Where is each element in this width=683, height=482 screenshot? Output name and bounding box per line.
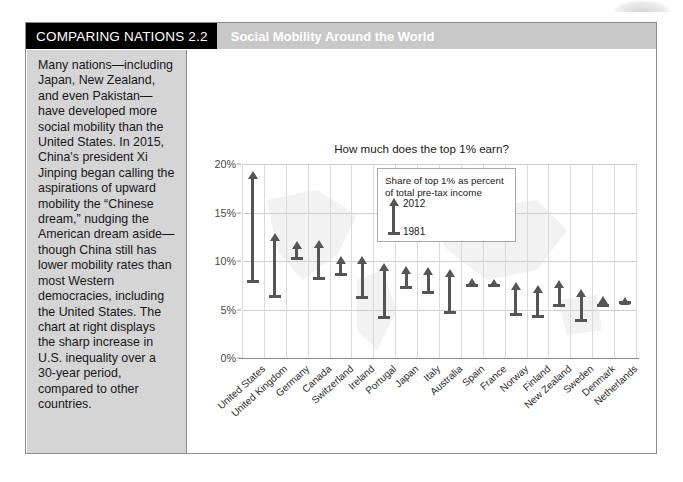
y-axis-tick-label: 10%	[214, 255, 236, 267]
y-axis-tick-label: 15%	[214, 207, 236, 219]
arrow-head-icon	[401, 266, 411, 274]
legend-label-2012: 2012	[403, 198, 425, 209]
arrow-head-icon	[270, 233, 280, 241]
arrow-base-marker	[488, 284, 500, 287]
figure-number-tag: COMPARING NATIONS 2.2	[26, 23, 217, 49]
arrow-base-marker	[532, 315, 544, 318]
legend-caption: Share of top 1% as percent of total pre-…	[385, 175, 513, 199]
chart-title: How much does the top 1% earn?	[187, 142, 656, 155]
arrow-head-icon	[554, 280, 564, 288]
chart-panel: How much does the top 1% earn? 0%5%10%15…	[187, 50, 656, 453]
y-axis-tick-mark	[237, 358, 241, 359]
arrow-head-icon	[576, 289, 586, 297]
arrow-head-icon	[336, 256, 346, 264]
y-axis-tick-mark	[237, 212, 241, 213]
arrow-head-icon	[248, 171, 258, 179]
arrow-shaft	[317, 247, 320, 277]
legend-arrow-shaft-icon	[392, 203, 395, 234]
arrow-base-marker	[422, 291, 434, 294]
arrow-shaft	[405, 273, 408, 286]
arrow-shaft	[448, 276, 451, 312]
arrow-shaft	[536, 292, 539, 315]
arrow-base-marker	[335, 273, 347, 276]
arrow-shaft	[514, 289, 517, 313]
gridline-vertical	[592, 164, 593, 358]
x-axis-tick-label: Japan	[393, 363, 421, 389]
arrow-base-marker	[378, 316, 390, 319]
arrow-head-icon	[314, 240, 324, 248]
x-axis-line	[239, 358, 639, 359]
arrow-base-marker	[510, 313, 522, 316]
arrow-shaft	[251, 178, 254, 281]
caption-sidebar: Many nations—including Japan, New Zealan…	[27, 50, 187, 453]
gridline-vertical	[527, 164, 528, 358]
y-axis-tick-label: 0%	[220, 352, 236, 364]
legend-label-1981: 1981	[403, 226, 425, 237]
arrow-head-icon	[445, 269, 455, 277]
arrow-shaft	[361, 263, 364, 296]
figure-header: COMPARING NATIONS 2.2 Social Mobility Ar…	[26, 23, 656, 49]
arrow-head-icon	[533, 285, 543, 293]
y-axis-tick-mark	[237, 309, 241, 310]
arrow-base-marker	[444, 311, 456, 314]
arrow-head-icon	[423, 267, 433, 275]
arrow-shaft	[558, 287, 561, 303]
arrow-shaft	[580, 296, 583, 319]
arrow-head-icon	[357, 256, 367, 264]
gridline-vertical	[614, 164, 615, 358]
arrow-shaft	[339, 263, 342, 272]
arrow-base-marker	[466, 284, 478, 287]
x-axis-labels: United StatesUnited KingdomGermanyCanada…	[242, 360, 636, 470]
gridline-vertical	[308, 164, 309, 358]
y-axis-tick-mark	[237, 261, 241, 262]
arrow-head-icon	[292, 241, 302, 249]
y-axis-tick-label: 20%	[214, 158, 236, 170]
gridline-vertical	[548, 164, 549, 358]
arrow-shaft	[427, 274, 430, 291]
arrow-base-marker	[291, 257, 303, 260]
legend-arrow-foot-icon	[388, 232, 400, 235]
gridline-vertical	[242, 164, 243, 358]
arrow-head-icon	[511, 282, 521, 290]
gridline-vertical	[351, 164, 352, 358]
arrow-shaft	[383, 270, 386, 316]
gridline-vertical	[330, 164, 331, 358]
y-axis-tick-mark	[237, 164, 241, 165]
gridline-vertical	[636, 164, 637, 358]
arrow-base-marker	[269, 295, 281, 298]
gridline-vertical	[264, 164, 265, 358]
arrow-shaft	[273, 240, 276, 295]
arrow-shaft	[295, 248, 298, 257]
arrow-base-marker	[356, 296, 368, 299]
figure-page: COMPARING NATIONS 2.2 Social Mobility Ar…	[0, 0, 683, 482]
arrow-base-marker	[597, 304, 609, 307]
caption-text: Many nations—including Japan, New Zealan…	[27, 50, 185, 420]
arrow-base-marker	[553, 304, 565, 307]
arrow-head-icon	[379, 263, 389, 271]
arrow-base-marker	[619, 301, 631, 304]
chart-legend: Share of top 1% as percent of total pre-…	[377, 168, 516, 242]
figure-title: Social Mobility Around the World	[217, 23, 435, 49]
print-smudge	[612, 0, 672, 12]
arrow-base-marker	[575, 319, 587, 322]
gridline-vertical	[570, 164, 571, 358]
figure-box: COMPARING NATIONS 2.2 Social Mobility Ar…	[25, 22, 657, 454]
arrow-base-marker	[247, 280, 259, 283]
arrow-base-marker	[400, 286, 412, 289]
gridline-vertical	[373, 164, 374, 358]
gridline-vertical	[286, 164, 287, 358]
arrow-base-marker	[313, 277, 325, 280]
y-axis-tick-label: 5%	[220, 304, 236, 316]
